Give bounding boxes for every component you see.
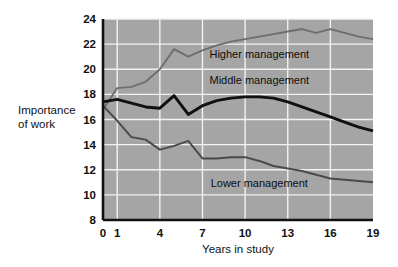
y-tick-label: 24 [83,13,96,25]
y-tick-label: 18 [83,88,96,100]
x-tick-label: 4 [157,227,164,239]
line-chart: 81012141618202224 014710131619 Years in … [0,0,398,267]
chart-figure: 81012141618202224 014710131619 Years in … [0,0,398,267]
y-tick-label: 14 [83,139,96,151]
x-tick-label: 0 [100,227,106,239]
x-tick-label: 1 [114,227,121,239]
y-axis-title-line2: of work [18,118,55,130]
y-axis-tick-labels: 81012141618202224 [83,13,96,226]
x-tick-label: 16 [324,227,337,239]
x-tick-label: 10 [239,227,252,239]
y-tick-label: 20 [83,63,96,75]
x-axis-title: Years in study [202,243,274,255]
y-tick-label: 16 [83,114,96,126]
y-tick-label: 10 [83,189,96,201]
y-tick-label: 22 [83,38,96,50]
y-tick-label: 12 [83,164,96,176]
series-label-lower-management: Lower management [211,177,308,189]
x-tick-label: 13 [281,227,294,239]
y-tick-label: 8 [90,214,97,226]
x-tick-label: 7 [199,227,205,239]
x-tick-label: 19 [367,227,380,239]
y-axis-title-line1: Importance [18,104,76,116]
series-label-middle-management: Middle management [209,74,309,86]
series-label-higher-management: Higher management [209,48,309,60]
